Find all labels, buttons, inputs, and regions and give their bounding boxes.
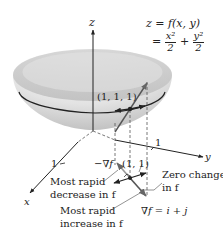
leader-lines [103, 164, 162, 210]
decrease-label-2: decrease in f [50, 190, 115, 200]
decrease-label-1: Most rapid [50, 177, 105, 187]
y-axis-label: y [205, 152, 211, 162]
z-axis-label: z [89, 17, 95, 28]
gradient-arrow [130, 178, 146, 196]
zero-change-arrow-right [130, 173, 146, 178]
increase-label-1: Most rapid [60, 206, 115, 216]
paraboloid-gradient-diagram: z z = f(x, y) = x²2 + y²2 (1, 1, 1) 1 y … [0, 0, 223, 242]
zero-change-arrow-left [114, 178, 130, 183]
zero-change-label-1: Zero change [162, 170, 223, 180]
gradient-equation-label: ∇f = i + j [141, 206, 187, 216]
neg-gradient-label: −∇f [94, 159, 113, 169]
x-axis-label: x [24, 197, 30, 207]
formula-term1: x²2 [165, 31, 177, 53]
surface-point-dot [128, 107, 132, 111]
plane-point-label: (1, 1) [122, 159, 149, 169]
zero-change-label-2: in f [162, 183, 179, 193]
formula-term2: y²2 [193, 31, 205, 53]
formula-line1: z = f(x, y) [146, 18, 200, 29]
plane-point-dot [128, 176, 132, 180]
x-tick-label: 1 [51, 159, 57, 169]
formula-line2: = x²2 + y²2 [152, 31, 204, 53]
increase-label-2: increase in f [60, 219, 123, 229]
y-tick-label: 1 [155, 138, 161, 148]
surface-point-label: (1, 1, 1) [97, 92, 137, 102]
